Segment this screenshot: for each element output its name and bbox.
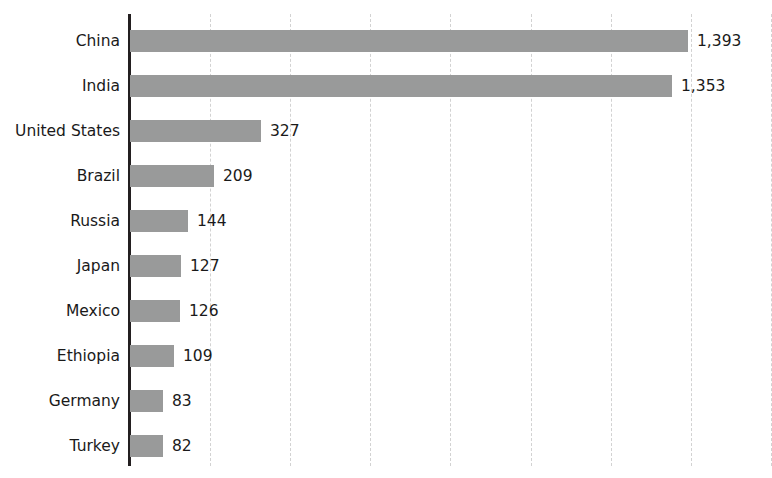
bar xyxy=(130,165,214,187)
bar xyxy=(130,30,688,52)
category-label: United States xyxy=(0,120,120,142)
value-label: 83 xyxy=(172,390,192,412)
bar-row: Ethiopia109 xyxy=(0,345,770,390)
category-label: Brazil xyxy=(0,165,120,187)
bar xyxy=(130,300,180,322)
category-label: Germany xyxy=(0,390,120,412)
bar xyxy=(130,210,188,232)
category-label: Ethiopia xyxy=(0,345,120,367)
bar xyxy=(130,435,163,457)
value-label: 144 xyxy=(197,210,227,232)
value-label: 109 xyxy=(183,345,213,367)
bar-row: China1,393 xyxy=(0,30,770,75)
category-label: Japan xyxy=(0,255,120,277)
bar-row: Mexico126 xyxy=(0,300,770,345)
bar xyxy=(130,75,672,97)
category-label: China xyxy=(0,30,120,52)
bar-row: India1,353 xyxy=(0,75,770,120)
category-label: India xyxy=(0,75,120,97)
bar-row: Japan127 xyxy=(0,255,770,300)
bar-row: United States327 xyxy=(0,120,770,165)
category-label: Mexico xyxy=(0,300,120,322)
value-label: 1,393 xyxy=(697,30,741,52)
value-label: 82 xyxy=(172,435,192,457)
value-label: 127 xyxy=(190,255,220,277)
bar-row: Germany83 xyxy=(0,390,770,435)
bar xyxy=(130,345,174,367)
bar-row: Brazil209 xyxy=(0,165,770,210)
bar-row: Turkey82 xyxy=(0,435,770,478)
bar xyxy=(130,390,163,412)
value-label: 126 xyxy=(189,300,219,322)
category-label: Turkey xyxy=(0,435,120,457)
value-label: 327 xyxy=(270,120,300,142)
bar-row: Russia144 xyxy=(0,210,770,255)
category-label: Russia xyxy=(0,210,120,232)
bar xyxy=(130,120,261,142)
value-label: 1,353 xyxy=(681,75,725,97)
bar xyxy=(130,255,181,277)
value-label: 209 xyxy=(223,165,253,187)
